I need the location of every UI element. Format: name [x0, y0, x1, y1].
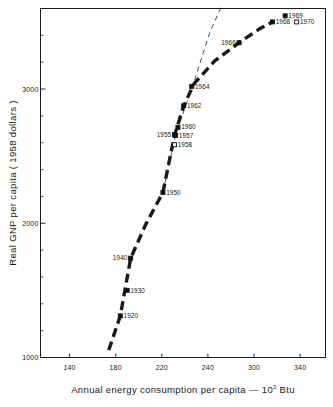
data-point-label-1955: 1955	[157, 131, 172, 138]
x-tick-label: 180	[110, 364, 122, 371]
data-point-label-1966: 1966	[221, 39, 236, 46]
data-point-marker-1970	[295, 20, 299, 24]
data-point-marker-1957	[174, 133, 178, 137]
data-point-marker-1962	[182, 104, 186, 108]
x-tick-label: 140	[63, 364, 75, 371]
data-point-marker-1968	[270, 20, 274, 24]
data-point-label-1968: 1968	[276, 18, 291, 25]
data-point-label-1970: 1970	[300, 18, 315, 25]
x-tick-label: 300	[248, 364, 260, 371]
data-point-marker-1920	[118, 314, 122, 318]
data-point-marker-1966	[237, 41, 241, 45]
data-point-label-1957: 1957	[179, 132, 194, 139]
data-point-label-1920: 1920	[123, 312, 138, 319]
data-point-marker-1964	[190, 84, 194, 88]
plot-frame	[41, 9, 326, 358]
data-point-marker-1930	[125, 288, 129, 292]
data-point-marker-1950	[161, 190, 165, 194]
data-point-label-1958: 1958	[178, 141, 193, 148]
y-tick-label: 1000	[22, 354, 38, 361]
data-point-label-1960: 1960	[181, 123, 196, 130]
y-axis-title: Real GNP per capita ( 1958 dollars )	[7, 100, 18, 266]
data-point-marker-1940	[129, 256, 133, 260]
data-point-label-1940: 1940	[113, 254, 128, 261]
data-point-marker-1958	[172, 143, 176, 147]
x-axis-title: Annual energy consumption per capita — 1…	[71, 384, 295, 395]
x-tick-label: 220	[156, 364, 168, 371]
chart-figure: 140180220240300340 100020003000 19201930…	[0, 0, 333, 407]
data-point-label-1962: 1962	[187, 102, 202, 109]
data-point-label-1964: 1964	[195, 83, 210, 90]
data-point-marker-1960	[176, 125, 180, 129]
scatter-plot-svg: 140180220240300340 100020003000 19201930…	[0, 0, 333, 407]
x-tick-label: 340	[294, 364, 306, 371]
data-point-label-1950: 1950	[166, 189, 181, 196]
y-tick-label: 3000	[22, 86, 38, 93]
y-tick-label: 2000	[22, 220, 38, 227]
x-axis-title-main: Annual energy consumption per capita — 1…	[71, 384, 273, 395]
x-axis-title-tail: Btu	[276, 384, 294, 395]
data-point-label-1930: 1930	[130, 287, 145, 294]
x-tick-label: 240	[202, 364, 214, 371]
